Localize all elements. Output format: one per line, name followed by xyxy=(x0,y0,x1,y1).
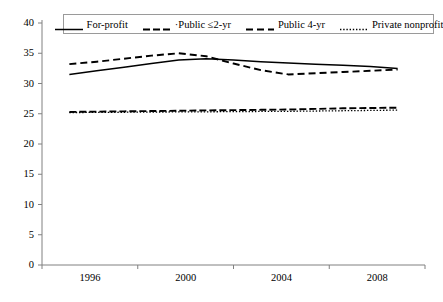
legend-swatch-dashed-icon xyxy=(245,20,275,29)
y-axis-tick-label: 30 xyxy=(8,79,34,89)
y-axis-ticks xyxy=(38,23,42,265)
y-axis-tick-label: 40 xyxy=(8,18,34,28)
data-series-group xyxy=(69,53,397,112)
axes xyxy=(42,20,425,265)
legend-label: For-profit xyxy=(87,19,128,30)
legend-label: Private nonprofit xyxy=(372,19,443,30)
y-axis-tick-label: 5 xyxy=(8,230,34,240)
y-axis-tick-label: 20 xyxy=(8,139,34,149)
legend-label: Public 4-yr xyxy=(278,19,325,30)
legend-item: Public 4-yr xyxy=(245,19,325,30)
legend-swatch-long-dash-icon xyxy=(142,20,172,29)
x-axis-tick-label: 2000 xyxy=(164,272,208,283)
legend-swatch-solid-icon xyxy=(54,20,84,29)
x-axis-tick-label: 2008 xyxy=(355,272,399,283)
y-axis-tick-label: 25 xyxy=(8,109,34,119)
x-axis-tick-label: 2004 xyxy=(259,272,303,283)
y-axis-tick-label: 10 xyxy=(8,200,34,210)
y-axis-tick-label: 15 xyxy=(8,169,34,179)
legend-label: ·Public ≤2-yr xyxy=(175,19,231,30)
legend-swatch-dotted-icon xyxy=(339,20,369,29)
y-axis-tick-label: 0 xyxy=(8,260,34,270)
chart-legend: For-profit·Public ≤2-yrPublic 4-yrPrivat… xyxy=(63,14,434,34)
y-axis-tick-label: 35 xyxy=(8,48,34,58)
legend-item: Private nonprofit xyxy=(339,19,443,30)
x-axis-tick-label: 1996 xyxy=(68,272,112,283)
legend-item: ·Public ≤2-yr xyxy=(142,19,231,30)
x-axis-ticks xyxy=(42,265,425,269)
series-line-public-4-yr xyxy=(69,53,397,74)
legend-item: For-profit xyxy=(54,19,128,30)
